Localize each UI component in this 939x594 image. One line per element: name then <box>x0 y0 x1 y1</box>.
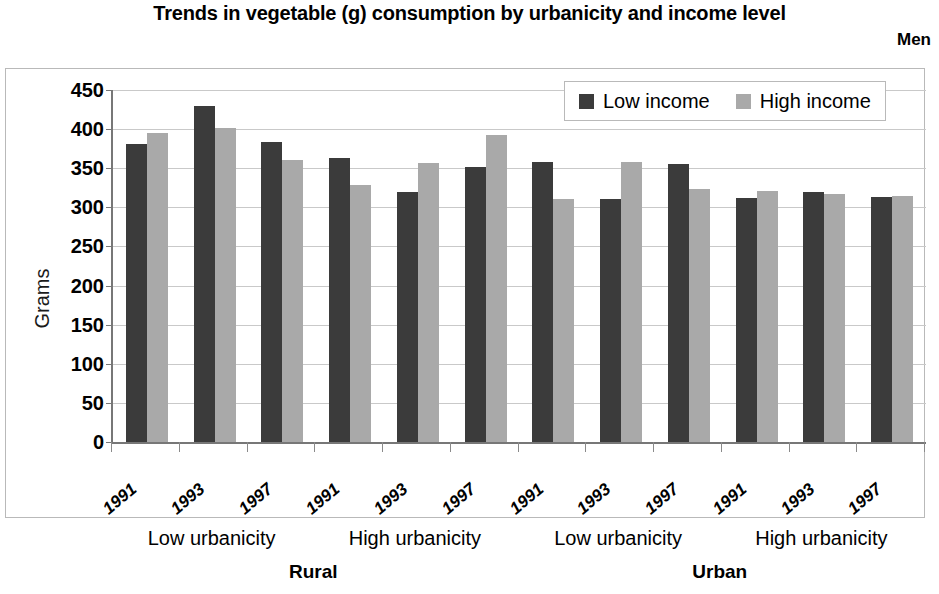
x-axis-year-label: 1993 <box>370 479 412 519</box>
x-axis-year-label: 1991 <box>506 479 548 519</box>
x-axis-year-label: 1991 <box>302 479 344 519</box>
x-axis-year-label: 1997 <box>235 479 277 519</box>
x-axis-region-label: Rural <box>110 561 517 583</box>
x-axis-year-label: 1993 <box>777 479 819 519</box>
x-axis-year-labels: 1991199319971991199319971991199319971991… <box>0 0 939 594</box>
x-axis-year-label: 1991 <box>99 479 141 519</box>
x-axis-region-label: Urban <box>517 561 924 583</box>
x-axis-urbanicity-label: High urbanicity <box>313 527 516 550</box>
x-axis-year-label: 1997 <box>844 479 886 519</box>
x-axis-urbanicity-label: Low urbanicity <box>110 527 313 550</box>
x-axis-year-label: 1993 <box>167 479 209 519</box>
x-axis-year-label: 1997 <box>438 479 480 519</box>
x-axis-year-label: 1993 <box>573 479 615 519</box>
x-axis-year-label: 1991 <box>709 479 751 519</box>
x-axis-urbanicity-label: High urbanicity <box>720 527 923 550</box>
x-axis-urbanicity-label: Low urbanicity <box>517 527 720 550</box>
x-axis-year-label: 1997 <box>641 479 683 519</box>
